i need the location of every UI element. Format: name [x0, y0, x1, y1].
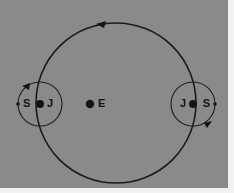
epicycle-left-direction-arrow-icon [22, 83, 30, 90]
jupiter-right-body-dot [189, 100, 197, 108]
jupiter-left-body-label: J [47, 97, 53, 109]
earth-body-dot [86, 100, 94, 108]
earth-body-label: E [98, 97, 105, 109]
satellite-right-body-dot [213, 102, 217, 106]
jupiter-left-body-dot [36, 100, 44, 108]
jupiter-right-body-label: J [180, 97, 186, 109]
orbital-diagram-figure: E S J J S [0, 0, 234, 193]
satellite-right-body-label: S [203, 97, 210, 109]
satellite-left-body-dot [16, 102, 20, 106]
deferent-orbit-circle [36, 23, 196, 183]
satellite-left-body-label: S [23, 97, 30, 109]
deferent-direction-arrow-icon [96, 21, 106, 28]
orbital-diagram-canvas: E S J J S [0, 0, 234, 193]
